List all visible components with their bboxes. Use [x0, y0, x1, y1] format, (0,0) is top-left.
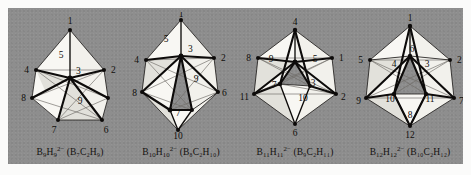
vertex-label-2-3: 3	[188, 44, 193, 54]
vertex-label-1-5: 5	[59, 50, 64, 60]
vertex-label-4-8: 8	[408, 110, 413, 120]
caption-b11h11: B11H112− (B₉C₂H₁₁)	[240, 145, 350, 158]
caption-b10h10: B10H102− (B₈C₂H₁₀)	[126, 145, 236, 158]
cluster-b12h12: 1 6 5 2 4 3 9 7 10 11 8 12 B12H122− (B₁₀…	[354, 12, 463, 162]
vertex-label-4-3: 3	[425, 59, 430, 69]
vertex-label-2-4: 4	[134, 55, 139, 65]
vertex-label-3-8: 8	[246, 53, 251, 63]
vertex-label-3-3: 3	[311, 78, 316, 88]
caption-b10h10-formula: B10H102− (B₈C₂H₁₀)	[142, 147, 219, 157]
vertex-label-4-12: 12	[405, 130, 415, 140]
vertex-label-1-7: 7	[52, 125, 57, 135]
vertex-label-4-2: 2	[457, 55, 462, 65]
cluster-b11h11-drawing: 4 1 8 9 5 7 3 11 2 10 6	[240, 12, 350, 140]
vertex-label-1-9: 9	[78, 96, 83, 106]
vertex-label-3-5: 5	[313, 54, 318, 64]
vertex-label-2-7: 7	[176, 108, 181, 118]
vertex-label-3-6: 6	[293, 128, 298, 138]
vertex-label-3-2: 2	[341, 92, 346, 102]
vertex-label-4-11: 11	[425, 94, 434, 104]
vertex-label-2-8: 8	[132, 88, 137, 98]
vertex-label-1-4: 4	[24, 65, 29, 75]
vertex-label-1-3: 3	[76, 66, 81, 76]
vertex-label-3-4: 4	[293, 17, 298, 27]
caption-b9h9-formula: B9H92− (B₇C₂H₉)	[37, 147, 104, 157]
vertex-label-4-10: 10	[385, 94, 395, 104]
vertex-label-2-9: 9	[194, 74, 199, 84]
caption-b12h12-formula: B12H122− (B₁₀C₂H₁₂)	[370, 147, 451, 157]
vertex-label-4-5: 5	[358, 55, 363, 65]
vertex-label-1-8: 8	[21, 93, 26, 103]
cluster-b10h10: 1 2 3 4 5 6 7 8 9 10 B10H102− (B₈C₂H₁₀)	[126, 12, 236, 162]
vertex-label-2-2: 2	[221, 53, 226, 63]
vertex-label-1-2: 2	[111, 65, 116, 75]
figure-plate: 1 2 3 4 5 6 7 8 9 B9H92− (B₇C₂H₉)	[8, 8, 463, 164]
vertex-label-2-10: 10	[173, 131, 183, 140]
vertex-label-3-11: 11	[240, 92, 249, 102]
vertex-label-2-6: 6	[222, 88, 227, 98]
vertex-label-3-1: 1	[339, 53, 344, 63]
vertex-label-1-1: 1	[68, 16, 73, 26]
cluster-b9h9-drawing: 1 2 3 4 5 6 7 8 9	[18, 12, 122, 140]
vertex-label-3-9: 9	[269, 54, 274, 64]
caption-b9h9: B9H92− (B₇C₂H₉)	[18, 145, 122, 158]
vertex-label-3-10: 10	[298, 93, 308, 103]
vertex-label-4-9: 9	[356, 96, 361, 106]
caption-b12h12: B12H122− (B₁₀C₂H₁₂)	[354, 145, 463, 158]
vertex-label-4-1: 1	[408, 13, 413, 23]
vertex-label-4-6: 6	[410, 44, 415, 54]
vertex-label-3-7: 7	[272, 80, 277, 90]
borane-cluster-figure: 1 2 3 4 5 6 7 8 9 B9H92− (B₇C₂H₉)	[0, 0, 471, 175]
cluster-b10h10-drawing: 1 2 3 4 5 6 7 8 9 10	[126, 12, 236, 140]
vertex-label-4-7: 7	[459, 96, 463, 106]
vertex-label-1-6: 6	[104, 125, 109, 135]
cluster-b12h12-drawing: 1 6 5 2 4 3 9 7 10 11 8 12	[354, 12, 463, 140]
caption-b11h11-formula: B11H112− (B₉C₂H₁₁)	[257, 147, 334, 157]
cluster-b11h11: 4 1 8 9 5 7 3 11 2 10 6 B11H112− (B₉C₂H₁…	[240, 12, 350, 162]
vertex-label-2-1: 1	[179, 12, 184, 19]
vertex-label-4-4: 4	[392, 59, 397, 69]
vertex-label-2-5: 5	[164, 34, 169, 44]
cluster-b9h9: 1 2 3 4 5 6 7 8 9 B9H92− (B₇C₂H₉)	[18, 12, 122, 162]
